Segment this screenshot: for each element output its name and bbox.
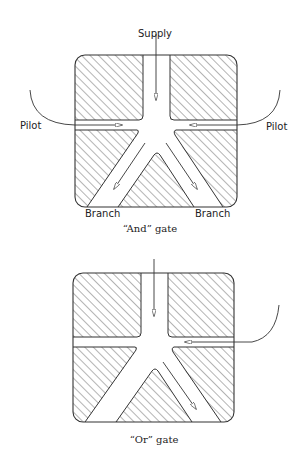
supply-label: Supply — [138, 28, 172, 39]
or-gate: “Or” gate — [73, 259, 279, 445]
and-gate-caption: “And” gate — [123, 223, 178, 234]
pilot-right-label: Pilot — [266, 121, 287, 132]
or-gate-caption: “Or” gate — [130, 434, 179, 445]
or-gate-body — [73, 273, 234, 422]
branch-left-label: Branch — [85, 208, 120, 219]
fluidic-logic-gates-diagram: Supply Pilot Pilot Branch Branch “And” g… — [0, 0, 297, 458]
branch-right-label: Branch — [195, 208, 230, 219]
and-gate: Supply Pilot Pilot Branch Branch “And” g… — [20, 28, 287, 234]
pilot-left-label: Pilot — [20, 120, 41, 131]
